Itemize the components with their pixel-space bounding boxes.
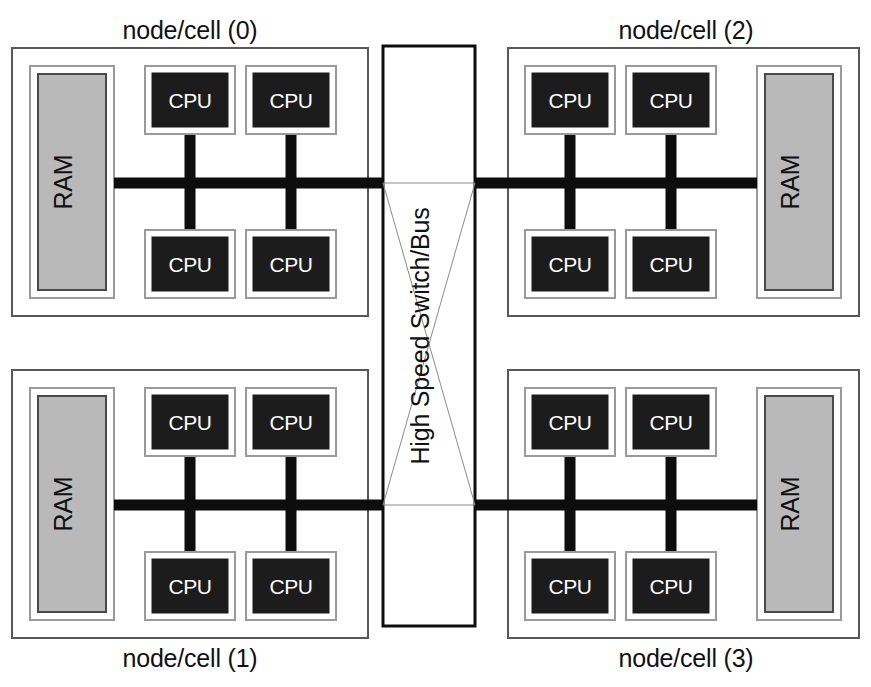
node-3-cpu-3-label: CPU	[649, 575, 692, 598]
node-2-cpu-3-label: CPU	[649, 253, 692, 276]
node-0-ram[interactable]: RAM	[30, 66, 114, 298]
node-3[interactable]: node/cell (3) RAM CPU CPU	[470, 370, 859, 672]
node-1-cpu-1-label: CPU	[269, 411, 312, 434]
node-2-cpu-2[interactable]: CPU	[525, 230, 615, 298]
node-2-label: node/cell (2)	[619, 16, 754, 44]
node-0-cpu-1[interactable]: CPU	[246, 66, 336, 134]
numa-diagram: node/cell (0) RAM CPU CPU	[0, 0, 871, 687]
node-0-cpu-2[interactable]: CPU	[145, 230, 235, 298]
node-2-ram[interactable]: RAM	[757, 66, 841, 298]
node-0-cpu-2-label: CPU	[168, 253, 211, 276]
switch-label: High Speed Switch/Bus	[406, 207, 434, 464]
node-2-cpu-2-label: CPU	[548, 253, 591, 276]
node-2-cpu-1-label: CPU	[649, 89, 692, 112]
node-3-ram-label: RAM	[776, 477, 804, 532]
node-1-cpu-2-label: CPU	[168, 575, 211, 598]
node-1-cpu-2[interactable]: CPU	[145, 552, 235, 620]
node-3-cpu-2[interactable]: CPU	[525, 552, 615, 620]
node-1-cpu-0[interactable]: CPU	[145, 388, 235, 456]
node-2-cpu-1[interactable]: CPU	[626, 66, 716, 134]
node-3-cpu-0-label: CPU	[548, 411, 591, 434]
node-1-ram-label: RAM	[49, 477, 77, 532]
node-0-cpu-3-label: CPU	[269, 253, 312, 276]
node-2-cpu-0[interactable]: CPU	[525, 66, 615, 134]
node-3-cpu-0[interactable]: CPU	[525, 388, 615, 456]
node-3-cpu-2-label: CPU	[548, 575, 591, 598]
node-3-cpu-1-label: CPU	[649, 411, 692, 434]
node-1-ram[interactable]: RAM	[30, 388, 114, 620]
node-1[interactable]: node/cell (1) RAM CPU CPU	[12, 370, 388, 672]
node-0-ram-label: RAM	[49, 155, 77, 210]
node-1-cpu-0-label: CPU	[168, 411, 211, 434]
node-3-cpu-3[interactable]: CPU	[626, 552, 716, 620]
node-2-ram-label: RAM	[776, 155, 804, 210]
node-0-cpu-0[interactable]: CPU	[145, 66, 235, 134]
node-2[interactable]: node/cell (2) RAM CPU CPU	[470, 16, 859, 316]
node-2-cpu-3[interactable]: CPU	[626, 230, 716, 298]
node-3-cpu-1[interactable]: CPU	[626, 388, 716, 456]
node-2-cpu-0-label: CPU	[548, 89, 591, 112]
node-0-cpu-0-label: CPU	[168, 89, 211, 112]
node-0-cpu-3[interactable]: CPU	[246, 230, 336, 298]
node-1-label: node/cell (1)	[123, 644, 258, 672]
node-0-label: node/cell (0)	[123, 16, 258, 44]
diagram-canvas: node/cell (0) RAM CPU CPU	[0, 0, 871, 687]
node-1-cpu-3-label: CPU	[269, 575, 312, 598]
node-0-cpu-1-label: CPU	[269, 89, 312, 112]
node-1-cpu-1[interactable]: CPU	[246, 388, 336, 456]
node-0[interactable]: node/cell (0) RAM CPU CPU	[12, 16, 388, 316]
node-1-cpu-3[interactable]: CPU	[246, 552, 336, 620]
high-speed-switch[interactable]: High Speed Switch/Bus	[383, 46, 475, 626]
node-3-ram[interactable]: RAM	[757, 388, 841, 620]
node-3-label: node/cell (3)	[619, 644, 754, 672]
